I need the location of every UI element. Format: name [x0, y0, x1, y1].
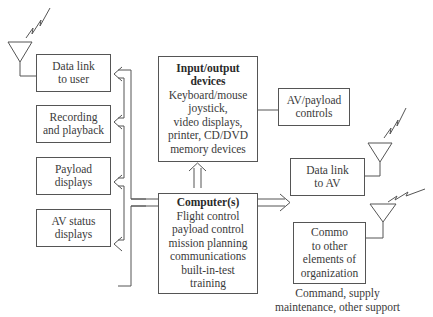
box-line: payload control: [172, 223, 244, 237]
box-line: AV/payload: [287, 94, 342, 108]
lightning-signal-icon-left: [26, 8, 50, 38]
box-line: Commo: [311, 226, 348, 240]
antenna-icon-left: [8, 42, 36, 76]
commo-caption: Command, supply maintenance, other suppo…: [265, 287, 410, 314]
bus-rail-inner: [118, 78, 124, 118]
box-line: joystick,: [188, 102, 227, 116]
box-line: Flight control: [177, 210, 240, 224]
antenna-icon-av: [364, 143, 392, 176]
box-line: elements of: [303, 253, 356, 267]
antenna-icon-commo: [366, 204, 396, 238]
box-line: displays: [55, 176, 93, 190]
box-line: video displays,: [174, 116, 243, 130]
box-line: Recording: [50, 111, 98, 125]
caption-line: maintenance, other support: [265, 301, 410, 315]
payload-displays-box: Payload displays: [36, 157, 111, 195]
lightning-signal-icon-av: [384, 108, 406, 138]
double-arrow-icon: [114, 67, 122, 251]
box-line: controls: [295, 107, 332, 121]
data-link-to-user-box: Data link to user: [36, 54, 111, 92]
box-title: devices: [190, 75, 225, 89]
box-line: Payload: [55, 163, 92, 177]
data-link-to-av-box: Data link to AV: [290, 158, 365, 196]
bus-rail-inner-3: [118, 186, 124, 240]
box-line: to AV: [314, 177, 340, 191]
commo-box: Commo to other elements of organization: [293, 222, 366, 284]
box-line: built-in-test: [181, 264, 235, 278]
box-title: Computer(s): [177, 196, 240, 210]
box-line: training: [190, 277, 226, 291]
box-line: printer, CD/DVD: [168, 129, 248, 143]
caption-line: Command, supply: [265, 287, 410, 301]
box-line: Data link: [52, 60, 94, 74]
input-output-devices-box: Input/output devices Keyboard/mouse joys…: [158, 56, 258, 162]
box-line: Keyboard/mouse: [169, 89, 248, 103]
box-line: and playback: [43, 124, 104, 138]
box-line: displays: [55, 228, 93, 242]
box-line: organization: [301, 267, 358, 281]
box-title: Input/output: [176, 62, 239, 76]
av-status-displays-box: AV status displays: [36, 209, 111, 247]
lightning-signal-icon-commo: [388, 189, 425, 202]
bus-rail-outer-lower: [118, 206, 146, 286]
box-line: Data link: [306, 164, 348, 178]
box-line: to user: [58, 73, 89, 87]
bus-rail-outer: [118, 70, 146, 199]
box-line: mission planning: [169, 237, 248, 251]
av-payload-controls-box: AV/payload controls: [278, 88, 350, 126]
box-line: AV status: [52, 215, 96, 229]
box-line: communications: [170, 250, 246, 264]
recording-playback-box: Recording and playback: [36, 105, 111, 143]
bus-rail-inner-2: [118, 126, 124, 178]
computers-box: Computer(s) Flight control payload contr…: [158, 193, 258, 294]
box-line: to other: [312, 240, 347, 254]
box-line: memory devices: [170, 143, 246, 157]
